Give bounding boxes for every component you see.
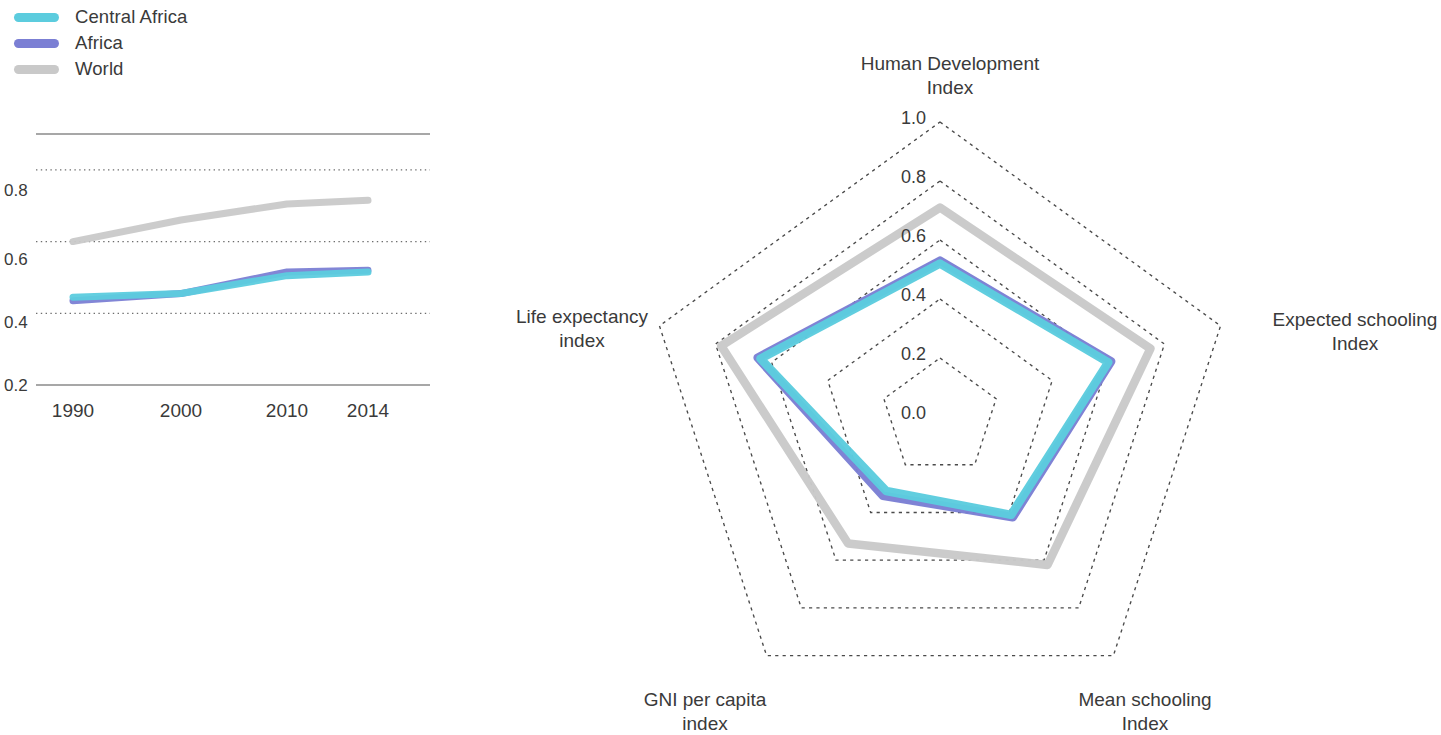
line-chart: 0.8 0.6 0.4 0.2 1990 2000 2010 2014 xyxy=(0,110,460,430)
radar-axis-label-hdi-line1: Human Development xyxy=(860,52,1040,76)
radar-scale-tick-0.4: 0.4 xyxy=(880,285,926,306)
legend-item-africa: Africa xyxy=(14,30,314,56)
line-chart-ytick-0.6: 0.6 xyxy=(4,250,40,270)
line-chart-ytick-0.8: 0.8 xyxy=(4,181,40,201)
legend-swatch-world xyxy=(14,65,59,74)
line-chart-xtick-2014: 2014 xyxy=(333,400,403,422)
radar-axis-label-expected-line1: Expected schooling xyxy=(1265,308,1441,332)
legend-swatch-africa xyxy=(14,39,59,48)
radar-axis-label-expected-line2: Index xyxy=(1265,332,1441,356)
line-chart-series-central-africa xyxy=(73,272,368,297)
line-chart-xtick-2000: 2000 xyxy=(146,400,216,422)
line-chart-xtick-1990: 1990 xyxy=(38,400,108,422)
legend-label-world: World xyxy=(75,58,123,80)
legend-item-world: World xyxy=(14,56,314,82)
legend-swatch-central-africa xyxy=(14,13,59,22)
legend-label-central-africa: Central Africa xyxy=(75,6,187,28)
line-chart-ytick-0.4: 0.4 xyxy=(4,313,40,333)
radar-chart-canvas xyxy=(470,0,1405,735)
radar-scale-tick-0.8: 0.8 xyxy=(880,167,926,188)
radar-series-central-africa xyxy=(760,264,1108,515)
radar-axis-label-life-expectancy-index: Life expectancy index xyxy=(492,305,672,353)
radar-axis-label-human-development-index: Human Development Index xyxy=(860,52,1040,100)
radar-axis-label-hdi-line2: Index xyxy=(860,76,1040,100)
radar-scale-tick-0.0: 0.0 xyxy=(880,403,926,424)
radar-gridline-ring xyxy=(828,299,1052,512)
radar-axis-label-gni-line1: GNI per capita xyxy=(615,688,795,712)
legend-item-central-africa: Central Africa xyxy=(14,4,314,30)
radar-chart: Human Development Index Expected schooli… xyxy=(470,0,1405,735)
radar-scale-tick-0.2: 0.2 xyxy=(880,344,926,365)
radar-axis-label-mean-line2: Index xyxy=(1055,712,1235,735)
radar-axis-label-expected-schooling-index: Expected schooling Index xyxy=(1265,308,1441,356)
legend-label-africa: Africa xyxy=(75,32,123,54)
radar-axis-label-life-line1: Life expectancy xyxy=(492,305,672,329)
radar-axis-label-gni-per-capita-index: GNI per capita index xyxy=(615,688,795,735)
line-chart-canvas xyxy=(0,110,460,430)
radar-scale-tick-0.6: 0.6 xyxy=(880,226,926,247)
chart-legend: Central Africa Africa World xyxy=(14,4,314,82)
radar-axis-label-mean-schooling-index: Mean schooling Index xyxy=(1055,688,1235,735)
line-chart-xtick-2010: 2010 xyxy=(252,400,322,422)
line-chart-series-world xyxy=(73,200,368,241)
radar-scale-tick-1.0: 1.0 xyxy=(880,108,926,129)
line-chart-ytick-0.2: 0.2 xyxy=(4,376,40,396)
radar-axis-label-life-line2: index xyxy=(492,329,672,353)
radar-axis-label-gni-line2: index xyxy=(615,712,795,735)
radar-axis-label-mean-line1: Mean schooling xyxy=(1055,688,1235,712)
